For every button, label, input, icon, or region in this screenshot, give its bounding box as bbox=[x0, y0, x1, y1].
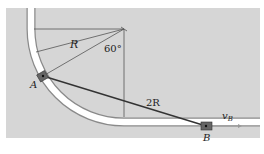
label-rod-length: 2R bbox=[146, 97, 160, 108]
label-radius: R bbox=[69, 38, 78, 51]
label-point-b: B bbox=[202, 132, 210, 143]
pin-b bbox=[205, 125, 207, 127]
pin-a bbox=[42, 75, 44, 77]
label-angle: 60° bbox=[104, 43, 122, 54]
mechanism-diagram: R 60° 2R A B vB bbox=[0, 0, 264, 154]
label-point-a: A bbox=[29, 79, 37, 90]
